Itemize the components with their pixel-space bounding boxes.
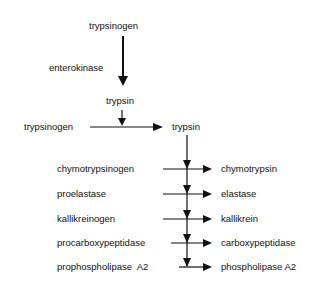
- label-trypsinogen-top: trypsinogen: [89, 20, 138, 31]
- zymogen-label: procarboxypeptidase: [57, 237, 145, 248]
- label-trypsin-auto: trypsin: [172, 121, 200, 132]
- enzyme-label: chymotrypsin: [221, 163, 277, 174]
- enzyme-label: carboxypeptidase: [221, 237, 295, 248]
- zymogen-label: kallikreinogen: [57, 213, 115, 224]
- label-enterokinase: enterokinase: [49, 62, 103, 73]
- enzyme-label: kallikrein: [221, 213, 258, 224]
- label-trypsinogen-auto: trypsinogen: [24, 121, 73, 132]
- zymogen-label: proelastase: [57, 188, 106, 199]
- zymogen-label: prophospholipase A2: [57, 261, 148, 272]
- zymogen-label: chymotrypsinogen: [57, 163, 134, 174]
- label-trypsin-top: trypsin: [106, 95, 134, 106]
- enzyme-label: elastase: [221, 188, 256, 199]
- enzyme-label: phospholipase A2: [221, 261, 296, 272]
